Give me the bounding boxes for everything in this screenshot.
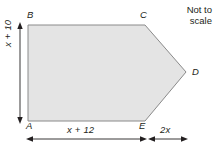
dimension-label-point-width: 2x — [160, 124, 170, 135]
not-to-scale-note: Not to scale — [158, 4, 212, 26]
dimension-bottom-base — [26, 136, 147, 141]
dimension-left-height — [17, 22, 22, 124]
vertex-label-B: B — [27, 9, 33, 20]
dimension-label-base: x + 12 — [67, 124, 94, 135]
not-to-scale-line-1: Not to — [158, 4, 212, 15]
dimension-bottom-point — [148, 136, 188, 141]
dimension-label-height: x + 10 — [2, 20, 13, 47]
vertex-label-A: A — [26, 120, 32, 131]
vertex-label-E: E — [139, 120, 145, 131]
pentagon-shape — [28, 25, 186, 121]
vertex-label-D: D — [192, 66, 199, 77]
not-to-scale-line-2: scale — [158, 15, 212, 26]
vertex-label-C: C — [140, 9, 147, 20]
figure-canvas: B C D A E x + 10 x + 12 2x Not to scale — [0, 0, 214, 149]
